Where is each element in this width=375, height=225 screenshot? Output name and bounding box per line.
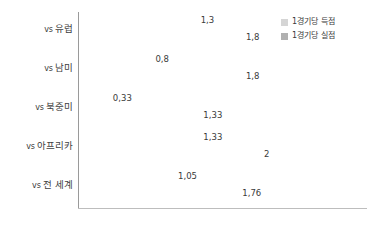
bar-row[interactable]: 1,3 (79, 13, 197, 27)
category-group: vs 북중미0,331,33 (0, 91, 375, 122)
legend-label: 1경기당 실점 (292, 31, 335, 41)
bar-value-label: 1,05 (174, 171, 197, 181)
legend-item[interactable]: 1경기당 득점 (281, 16, 373, 28)
category-group: vs 아프리카1,332 (0, 130, 375, 161)
bar-value-label: 1,3 (197, 15, 215, 25)
chart-legend: 1경기당 득점1경기당 실점 (281, 16, 373, 44)
bar-row[interactable]: 0,33 (79, 91, 109, 105)
legend-item[interactable]: 1경기당 실점 (281, 30, 373, 42)
bar-row[interactable]: 1,76 (79, 186, 238, 200)
bar-row[interactable]: 1,8 (79, 30, 242, 44)
bar-row[interactable]: 2 (79, 147, 260, 161)
bar-value-label: 1,76 (238, 188, 261, 198)
bar-row[interactable]: 1,33 (79, 108, 199, 122)
category-label-prefix: vs (32, 181, 43, 190)
category-label: vs 북중미 (0, 101, 73, 113)
bar-row[interactable]: 1,05 (79, 169, 174, 183)
bar-value-label: 1,8 (242, 32, 260, 42)
category-group: vs 남미0,81,8 (0, 52, 375, 83)
category-label-prefix: vs (44, 25, 55, 34)
bar-row[interactable]: 0,8 (79, 52, 151, 66)
bar-value-label: 2 (260, 149, 269, 159)
legend-swatch-icon (281, 33, 288, 40)
category-label: vs 남미 (0, 62, 73, 74)
legend-label: 1경기당 득점 (292, 17, 335, 27)
category-group: vs 전 세계1,051,76 (0, 169, 375, 200)
x-axis-line (78, 208, 367, 209)
category-label-text: 북중미 (46, 101, 73, 112)
bar-row[interactable]: 1,33 (79, 130, 199, 144)
bar-value-label: 1,33 (199, 132, 222, 142)
legend-swatch-icon (281, 19, 288, 26)
bar-chart: vs 유럽1,31,8vs 남미0,81,8vs 북중미0,331,33vs 아… (0, 0, 375, 225)
category-label: vs 전 세계 (0, 179, 73, 191)
category-label: vs 유럽 (0, 23, 73, 35)
category-label-text: 전 세계 (43, 179, 73, 190)
category-label: vs 아프리카 (0, 140, 73, 152)
category-label-prefix: vs (26, 142, 37, 151)
category-label-text: 남미 (55, 62, 73, 73)
bar-value-label: 1,8 (242, 71, 260, 81)
bar-value-label: 0,8 (151, 54, 169, 64)
bar-row[interactable]: 1,8 (79, 69, 242, 83)
bar-value-label: 0,33 (109, 93, 132, 103)
bar-value-label: 1,33 (199, 110, 222, 120)
category-label-text: 유럽 (55, 23, 73, 34)
category-label-text: 아프리카 (37, 140, 73, 151)
category-label-prefix: vs (44, 64, 55, 73)
category-label-prefix: vs (35, 103, 46, 112)
